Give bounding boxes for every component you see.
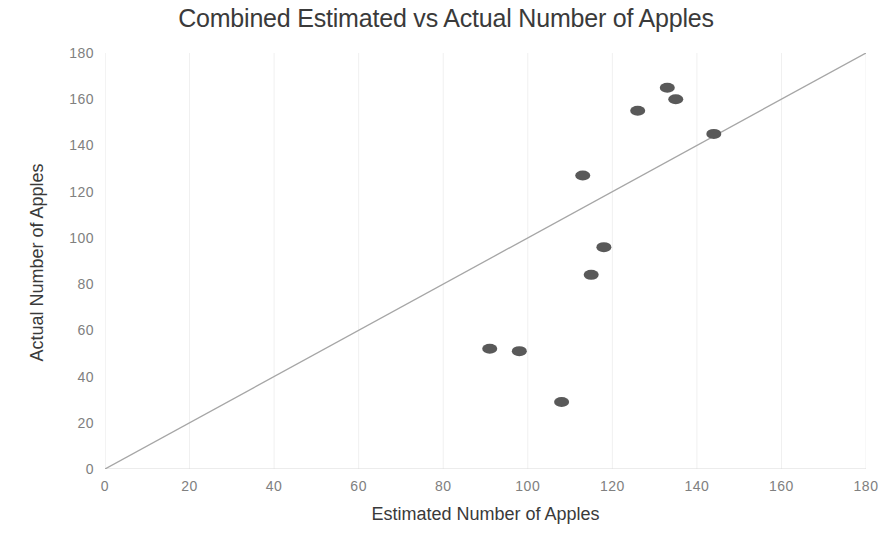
x-tick-label: 120 xyxy=(582,478,642,494)
y-tick-label: 160 xyxy=(48,91,94,107)
x-axis-tick-labels: 020406080100120140160180 xyxy=(105,478,866,500)
x-tick-label: 180 xyxy=(836,478,892,494)
data-point xyxy=(584,270,599,280)
data-point xyxy=(512,346,527,356)
x-tick-label: 0 xyxy=(75,478,135,494)
y-tick-label: 20 xyxy=(48,415,94,431)
y-axis-title: Actual Number of Apples xyxy=(27,68,48,458)
x-tick-label: 20 xyxy=(160,478,220,494)
reference-line xyxy=(105,53,866,469)
data-point xyxy=(482,344,497,354)
x-tick-label: 140 xyxy=(667,478,727,494)
x-tick-label: 40 xyxy=(244,478,304,494)
data-point xyxy=(630,106,645,116)
y-tick-label: 0 xyxy=(48,461,94,477)
data-point xyxy=(668,94,683,104)
plot-area xyxy=(105,53,866,469)
y-tick-label: 100 xyxy=(48,230,94,246)
x-tick-label: 100 xyxy=(498,478,558,494)
y-tick-label: 80 xyxy=(48,276,94,292)
x-axis-title: Estimated Number of Apples xyxy=(105,504,866,525)
data-point xyxy=(660,83,675,93)
data-point xyxy=(554,397,569,407)
data-point xyxy=(706,129,721,139)
y-axis-tick-labels: 020406080100120140160180 xyxy=(42,53,94,469)
y-tick-label: 40 xyxy=(48,369,94,385)
x-tick-label: 60 xyxy=(329,478,389,494)
y-tick-label: 60 xyxy=(48,322,94,338)
y-tick-label: 180 xyxy=(48,45,94,61)
data-point xyxy=(575,170,590,180)
x-tick-label: 160 xyxy=(751,478,811,494)
scatter-chart: Combined Estimated vs Actual Number of A… xyxy=(0,0,892,537)
chart-title: Combined Estimated vs Actual Number of A… xyxy=(0,4,892,33)
data-point xyxy=(596,242,611,252)
y-tick-label: 140 xyxy=(48,137,94,153)
x-tick-label: 80 xyxy=(413,478,473,494)
y-tick-label: 120 xyxy=(48,184,94,200)
plot-canvas xyxy=(105,53,866,469)
